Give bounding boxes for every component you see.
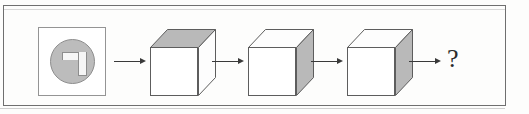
arrow-head bbox=[140, 58, 146, 64]
arrow-icon-2 bbox=[212, 57, 245, 66]
cube-1 bbox=[150, 29, 216, 97]
cube-2 bbox=[248, 29, 314, 97]
figure-frame: ? bbox=[3, 5, 506, 106]
arrow-head bbox=[435, 58, 441, 64]
arrow-icon-3 bbox=[311, 57, 344, 66]
arrow-icon-1 bbox=[114, 57, 147, 66]
arrow-shaft bbox=[114, 61, 141, 62]
frame-bottom-outer-rule bbox=[0, 108, 505, 109]
gray-circle-icon bbox=[50, 39, 95, 84]
arrow-head bbox=[337, 58, 343, 64]
arrow-shaft bbox=[212, 61, 239, 62]
cube-3 bbox=[347, 29, 413, 97]
scanned-page-background: ? bbox=[0, 0, 529, 114]
arrow-head bbox=[238, 58, 244, 64]
cube-2-front-face bbox=[248, 47, 296, 96]
cube-3-front-face bbox=[347, 47, 395, 96]
cube-1-front-face bbox=[150, 47, 198, 96]
arrow-shaft bbox=[409, 61, 436, 62]
icon-panel bbox=[38, 27, 106, 96]
arrow-icon-4 bbox=[409, 57, 442, 66]
arrow-shaft bbox=[311, 61, 338, 62]
question-mark: ? bbox=[447, 46, 459, 72]
gamma-corner-icon-vertical-arm bbox=[78, 52, 87, 76]
gamma-corner-icon-joint bbox=[79, 58, 86, 62]
